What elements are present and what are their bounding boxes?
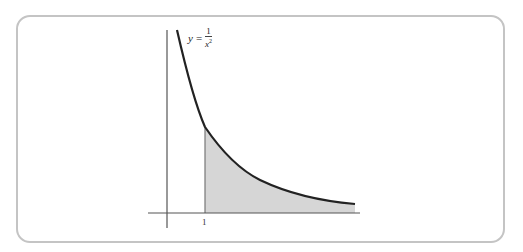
equation-numerator: 1 [205,27,212,37]
equation-lhs: y [188,32,193,44]
equation-equals: = [196,32,202,44]
denominator-exponent: 2 [209,38,212,44]
equation-fraction: 1 x2 [205,27,212,49]
equation-denominator: x2 [205,37,212,49]
graph-plot [0,0,523,252]
curve-y-1-over-x-squared [177,30,355,204]
equation-label: y = 1 x2 [188,27,212,49]
shaded-area [205,127,355,213]
x-tick-label-1: 1 [202,217,207,227]
